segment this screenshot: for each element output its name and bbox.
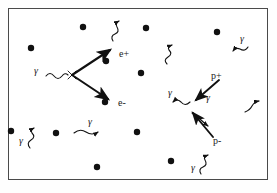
annihilation-vertex [173,80,219,137]
diagram-artwork [0,0,277,193]
dot-9 [53,130,59,136]
dot-2 [143,25,149,31]
label-gamma-incoming: γ [34,66,38,76]
dot-10 [134,129,140,135]
label-electron-positive: e+ [119,49,129,59]
label-electron-negative: e- [118,98,126,108]
label-gamma-bottom-left: γ [19,136,23,146]
dot-12 [168,158,174,164]
label-gamma-mid: γ [88,117,92,127]
label-proton-negative: p- [213,136,221,146]
dot-3 [214,29,220,35]
dot-6 [138,70,144,76]
dot-7 [102,99,108,105]
photon-mid-wave [74,130,98,134]
photon-annih-right [192,113,208,126]
photon-incoming-wave [46,74,68,79]
photon-far-top-right [233,47,248,51]
label-gamma-top-right: γ [240,34,244,44]
photon-bottom-left [28,128,34,148]
photon-top-right-wave [165,45,172,64]
label-gamma-annih-right: γ [206,93,210,103]
dot-4 [28,45,34,51]
dot-8 [8,128,14,134]
photon-top-center-wave [112,21,119,41]
photon-right-wave [245,101,259,112]
label-gamma-bottom-right: γ [191,163,195,173]
diagram-canvas: e+ e- p+ p- γ γ γ γ γ γ γ [0,0,277,193]
dot-1 [80,24,86,30]
track-electron [72,75,108,99]
photon-bottom-right [200,155,208,174]
track-proton-negative [193,113,213,137]
dot-group [8,24,220,170]
label-gamma-annih-left: γ [168,88,172,98]
photon-annih-left [173,100,190,105]
pair-production-vertex [46,50,110,99]
dot-5 [103,58,109,64]
photon-group [28,21,259,174]
dot-11 [94,164,100,170]
label-proton-positive: p+ [211,71,222,81]
